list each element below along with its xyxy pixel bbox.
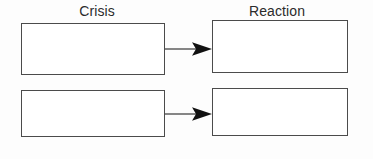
arrow-icon-crisis2-to-reaction2 xyxy=(164,103,214,125)
reaction-box-1[interactable] xyxy=(212,20,348,73)
column-header-crisis: Crisis xyxy=(37,3,157,19)
crisis-box-2[interactable] xyxy=(21,90,165,137)
diagram-canvas: Crisis Reaction xyxy=(0,0,373,159)
column-header-reaction: Reaction xyxy=(217,3,337,19)
crisis-box-1[interactable] xyxy=(21,23,165,75)
arrow-icon-crisis1-to-reaction1 xyxy=(164,38,214,60)
reaction-box-2[interactable] xyxy=(212,88,348,136)
